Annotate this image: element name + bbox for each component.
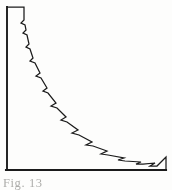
figure-caption: Fig. 13 xyxy=(3,176,123,190)
figure-container: Fig. 13 xyxy=(0,0,172,190)
figure-plot xyxy=(0,0,172,190)
figure-caption-text: Fig. 13 xyxy=(3,176,123,190)
